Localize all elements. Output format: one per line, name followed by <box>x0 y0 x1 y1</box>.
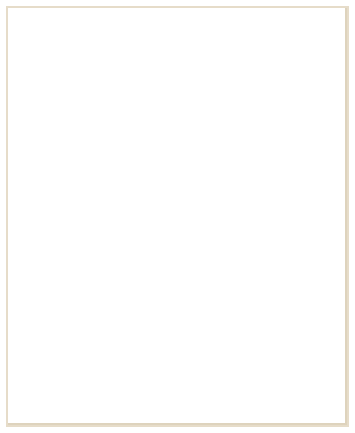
lateral-corticospinal-tract <box>134 200 174 378</box>
label-lateral-corticospinal-tract-line2: Corticospinal Tract <box>32 275 102 285</box>
cerebral-cortex-outline <box>154 20 242 107</box>
label-percent-anterior: 2% <box>205 247 217 256</box>
spinal-cord-group <box>127 366 221 410</box>
label-pyramid: Pyramid <box>218 161 249 171</box>
corticospinal-tract-diagram: Cerebral Cortex Pyramid Lateral Corticos… <box>0 0 355 433</box>
pyramid-ellipse <box>157 160 191 172</box>
label-anterior-corticospinal-tract-line2: Corticospinal Tract <box>234 292 304 302</box>
anterior-corticospinal-tract <box>180 201 211 376</box>
label-lateral-corticospinal-tract-line1: Lateral <box>75 264 101 274</box>
label-percent-lateral: 90% <box>110 226 126 235</box>
figure-root: Cerebral Cortex Pyramid Lateral Corticos… <box>0 0 355 433</box>
label-cerebral-cortex: Cerebral Cortex <box>255 63 315 73</box>
label-percent-barnes: 8% <box>146 277 158 286</box>
tract-of-barnes <box>172 206 179 382</box>
label-tract-of-barnes: Tract of Barnes <box>234 317 291 327</box>
label-anterior-corticospinal-tract-line1: Anterior <box>234 281 264 291</box>
cerebral-cortex-group <box>154 20 242 110</box>
